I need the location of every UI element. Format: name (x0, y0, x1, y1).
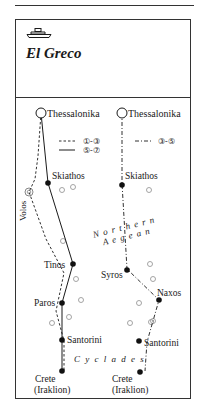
top-rule (15, 5, 194, 6)
legend-solid-label: ⑤-⑦ (83, 146, 100, 155)
label-santorini-left: Santorini (67, 335, 102, 345)
port-crete-right (137, 369, 143, 375)
legend-dashed-label: ①-③ (83, 137, 100, 146)
port-naxos (156, 297, 162, 303)
label-skiathos-left: Skiathos (52, 171, 85, 181)
label-crete-right: Crete (112, 374, 133, 384)
route-dashdot-3-5 (122, 113, 159, 371)
volos-port-marker (25, 188, 33, 196)
label-paros: Paros (34, 298, 55, 308)
port-syros (124, 267, 130, 273)
label-thessalonika-left: Thessalonika (47, 108, 100, 119)
port-thessalonika-right (117, 108, 127, 118)
port-santorini-left (59, 337, 65, 343)
legend-dashdot-label: ③-⑤ (158, 137, 175, 146)
route-card: El Greco Volos Thessalonika Skiathos (15, 19, 191, 399)
label-cyclades: C y c l a d e s (74, 354, 145, 364)
route-dashed-1-3 (29, 113, 64, 371)
route-solid-5-7 (41, 113, 73, 371)
label-skiathos-right: Skiathos (125, 171, 158, 181)
label-iraklion-right: (Iraklion) (112, 385, 148, 396)
port-tinos (70, 261, 76, 267)
island-markers (50, 185, 156, 326)
label-syros: Syros (101, 270, 123, 280)
route-map: Volos Thessalonika Skiathos Tinos Paros … (16, 20, 192, 400)
label-tinos: Tinos (44, 260, 66, 270)
label-naxos: Naxos (157, 288, 182, 298)
port-skiathos-left (45, 180, 51, 186)
port-paros (59, 300, 65, 306)
port-skiathos-right (119, 182, 125, 188)
port-crete-left (59, 368, 65, 374)
port-santorini-right (136, 338, 142, 344)
port-thessalonika-left (36, 108, 46, 118)
label-thessalonika-right: Thessalonika (128, 108, 181, 119)
label-volos: Volos (18, 200, 28, 221)
label-crete-left: Crete (35, 374, 56, 384)
label-santorini-right: Santorini (144, 338, 179, 348)
legend: ①-③ ⑤-⑦ ③-⑤ (59, 137, 175, 155)
label-iraklion-left: (Iraklion) (34, 385, 70, 396)
